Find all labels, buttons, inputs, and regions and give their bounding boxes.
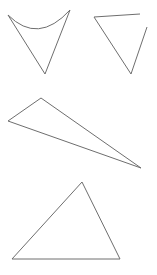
- thin-obtuse-triangle: [8, 98, 141, 168]
- shapes-canvas: [0, 0, 157, 275]
- curved-top-triangle: [8, 10, 70, 74]
- open-triangle-sides: [94, 17, 147, 74]
- open-triangle-top-edge: [94, 14, 140, 17]
- acute-triangle: [12, 182, 120, 259]
